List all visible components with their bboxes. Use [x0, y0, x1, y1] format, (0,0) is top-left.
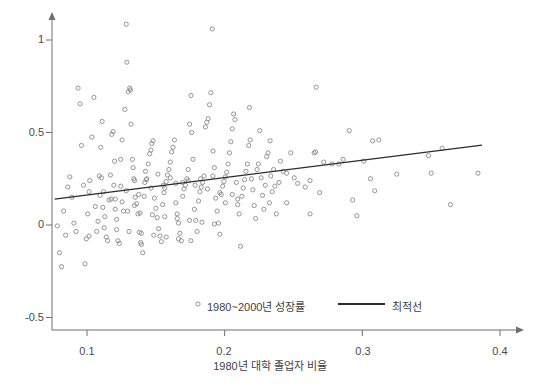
x-axis-title: 1980년 대학 졸업자 비율 [170, 357, 370, 373]
scatter-points-group [55, 22, 480, 269]
x-tick-label-0point4: 0.4 [480, 345, 520, 357]
scatter-chart-figure: 1 0.5 0 -0.5 0.1 0.2 0.3 0.4 1980년 대학 졸업… [0, 0, 537, 387]
x-tick-label-0point2: 0.2 [204, 345, 244, 357]
y-tick-label-1: 1 [14, 33, 44, 45]
x-tick-label-0point1: 0.1 [67, 345, 107, 357]
legend-label-trendline: 최적선 [392, 298, 422, 314]
legend-label-scatter: 1980~2000년 성장률 [207, 298, 305, 314]
plot-canvas [0, 0, 537, 387]
trendline [55, 145, 482, 199]
y-tick-label-minus0point5: -0.5 [6, 311, 44, 323]
y-tick-label-0: 0 [14, 218, 44, 230]
y-tick-label-0point5: 0.5 [10, 126, 44, 138]
x-tick-label-0point3: 0.3 [343, 345, 383, 357]
page-footer-sliver [6, 381, 256, 387]
